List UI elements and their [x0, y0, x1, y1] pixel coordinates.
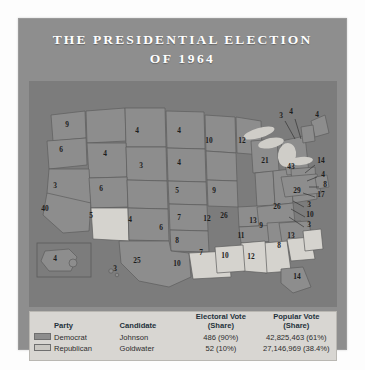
state-vote-label: 12	[203, 214, 211, 223]
state-vote-label: 13	[287, 231, 295, 240]
legend-popular-header-line2: (Share)	[257, 322, 336, 331]
legend-header-row: Party Candidate Electoral Vote (Share) P…	[30, 312, 336, 332]
state-vote-label: 8	[175, 236, 179, 245]
state-vote-label: 10	[205, 136, 213, 145]
state-vote-label: 13	[249, 216, 257, 225]
state-vote-label: 9	[212, 186, 216, 195]
legend-candidate-johnson: Johnson	[120, 332, 186, 343]
legend-electoral-header-line2: (Share)	[185, 322, 256, 331]
legend-swatch-cell	[30, 332, 54, 343]
state-vote-label: 14	[317, 156, 325, 165]
legend-popular-republican: 27,146,969 (38.4%)	[257, 343, 336, 354]
state-vote-label: 3	[307, 200, 311, 209]
state-vote-label: 4	[53, 254, 57, 263]
state-vote-label: 8	[323, 180, 327, 189]
republican-swatch	[34, 344, 51, 351]
state-vote-label: 9	[65, 120, 69, 129]
state-vote-label: 11	[238, 231, 245, 240]
legend-party-republican: Republican	[54, 343, 120, 354]
state-vote-label: 25	[133, 256, 141, 265]
state-vote-label: 6	[59, 145, 63, 154]
legend-swatch-header	[30, 312, 54, 332]
state-vote-label: 12	[238, 136, 246, 145]
state-vote-label: 6	[99, 184, 103, 193]
state-vote-label: 10	[306, 210, 314, 219]
legend-candidate-header: Candidate	[120, 312, 186, 332]
election-map-figure: THE PRESIDENTIAL ELECTION OF 1964 .dem{f…	[18, 18, 347, 350]
state-vote-label: 4	[135, 126, 139, 135]
page-title: THE PRESIDENTIAL ELECTION OF 1964	[19, 19, 346, 79]
state-vote-label: 9	[259, 221, 263, 230]
legend-electoral-democrat: 486 (90%)	[185, 332, 256, 343]
state-vote-label: 4	[177, 158, 181, 167]
state-vote-label: 5	[89, 211, 93, 220]
legend-party-header: Party	[54, 312, 120, 332]
state-vote-label: 4	[177, 126, 181, 135]
title-line-1: THE PRESIDENTIAL ELECTION	[53, 30, 313, 49]
legend-candidate-goldwater: Goldwater	[120, 343, 186, 354]
us-electoral-map: .dem{fill:#8d8d8d;stroke:#5d5d5d;stroke-…	[29, 81, 337, 307]
legend-popular-democrat: 42,825,463 (61%)	[257, 332, 336, 343]
legend-electoral-header: Electoral Vote (Share)	[185, 312, 256, 332]
state-vote-label: 4	[315, 110, 319, 119]
state-vote-label: 4	[128, 215, 132, 224]
table-row: Democrat Johnson 486 (90%) 42,825,463 (6…	[30, 332, 336, 343]
legend-table: Party Candidate Electoral Vote (Share) P…	[29, 311, 337, 361]
legend-swatch-cell	[30, 343, 54, 354]
table-row: Republican Goldwater 52 (10%) 27,146,969…	[30, 343, 336, 354]
state-vote-label: 26	[273, 202, 281, 211]
state-vote-label: 3	[307, 220, 311, 229]
legend-electoral-republican: 52 (10%)	[185, 343, 256, 354]
state-vote-label: 14	[293, 272, 301, 281]
state-vote-label: 6	[159, 223, 163, 232]
state-vote-label: 7	[199, 248, 203, 257]
state-vote-label: 5	[175, 186, 179, 195]
state-vote-label: 10	[173, 259, 181, 268]
state-vote-label: 43	[287, 162, 295, 171]
state-vote-label: 12	[247, 252, 255, 261]
legend-party-democrat: Democrat	[54, 332, 120, 343]
state-vote-label: 4	[321, 170, 325, 179]
state-vote-label: 10	[221, 251, 229, 260]
state-vote-label: 3	[53, 181, 57, 190]
legend-popular-header: Popular Vote (Share)	[257, 312, 336, 332]
state-vote-label: 29	[293, 186, 301, 195]
state-vote-label: 17	[317, 190, 325, 199]
state-vote-label: 40	[41, 204, 49, 213]
state-vote-label: 4	[289, 107, 293, 116]
state-vote-label: 21	[261, 156, 269, 165]
state-vote-label: 7	[177, 213, 181, 222]
state-vote-label: 3	[113, 264, 117, 273]
democrat-swatch	[34, 333, 51, 340]
state-vote-label: 3	[139, 161, 143, 170]
state-vote-label: 26	[220, 211, 228, 220]
title-line-2: OF 1964	[150, 49, 215, 68]
state-vote-label: 4	[103, 149, 107, 158]
state-vote-label: 8	[277, 241, 281, 250]
state-vote-label: 3	[279, 111, 283, 120]
